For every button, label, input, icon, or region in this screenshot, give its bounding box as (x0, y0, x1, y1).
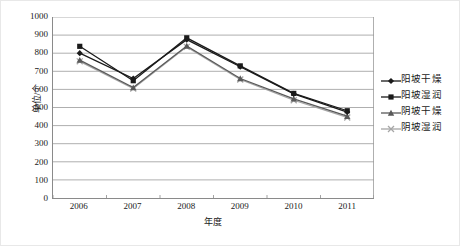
x-tick-label: 2009 (215, 201, 265, 212)
y-tick-label: 300 (18, 139, 48, 148)
square-marker (77, 44, 82, 49)
square-marker (131, 78, 136, 83)
square-marker (238, 63, 243, 68)
x-tick-label: 2011 (322, 201, 372, 212)
y-tick-label: 1000 (18, 12, 48, 21)
x-tick-label: 2007 (108, 201, 158, 212)
y-tick-label: 700 (18, 67, 48, 76)
legend-item-label: 阳坡干燥 (401, 73, 442, 85)
series-line (80, 38, 348, 111)
y-axis-tick-labels: 10009008007006005004003002001000 (18, 17, 48, 199)
y-tick-label: 500 (18, 103, 48, 112)
square-marker (388, 94, 393, 99)
triangle-marker (184, 43, 190, 49)
y-tick-label: 200 (18, 158, 48, 167)
cross-marker (381, 121, 401, 133)
diamond-marker (381, 73, 401, 85)
plot-area (52, 17, 374, 199)
series-line (80, 40, 348, 112)
y-tick-label: 100 (18, 176, 48, 185)
square-marker (291, 91, 296, 96)
y-tick-label: 900 (18, 30, 48, 39)
legend-item[interactable]: 阴坡湿润 (381, 119, 457, 135)
line-chart-figure: 单位/个 10009008007006005004003002001000 20… (0, 0, 460, 246)
legend-item-label: 阴坡干燥 (401, 105, 442, 117)
chart-legend: 阳坡干燥阳坡湿润阴坡干燥阴坡湿润 (381, 71, 457, 135)
triangle-marker (381, 105, 401, 117)
y-tick-label: 800 (18, 48, 48, 57)
legend-item[interactable]: 阴坡干燥 (381, 103, 457, 119)
legend-item-label: 阴坡湿润 (401, 121, 442, 133)
series-line (80, 46, 348, 116)
legend-item-label: 阳坡湿润 (401, 89, 442, 101)
legend-item[interactable]: 阳坡湿润 (381, 87, 457, 103)
square-marker (345, 108, 350, 113)
diamond-marker (388, 78, 394, 84)
x-tick-label: 2008 (161, 201, 211, 212)
x-axis-title: 年度 (52, 215, 374, 228)
y-tick-label: 400 (18, 121, 48, 130)
y-tick-label: 0 (18, 194, 48, 203)
x-tick-label: 2006 (54, 201, 104, 212)
y-tick-label: 600 (18, 85, 48, 94)
square-marker (184, 35, 189, 40)
series-line (80, 47, 348, 118)
x-axis-tick-labels: 200620072008200920102011 (52, 201, 374, 215)
square-marker (381, 89, 401, 101)
diamond-marker (77, 50, 83, 56)
chart-canvas (53, 17, 374, 198)
x-tick-label: 2010 (269, 201, 319, 212)
legend-item[interactable]: 阳坡干燥 (381, 71, 457, 87)
